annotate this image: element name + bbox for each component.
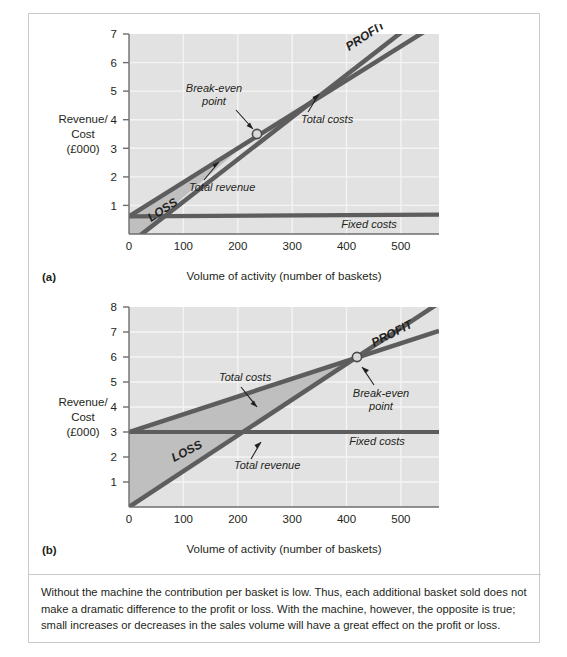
chart-b-ytick-8: 8 bbox=[111, 301, 117, 313]
chart-b-total-revenue-label: Total revenue bbox=[234, 459, 300, 471]
chart-a-total-costs-label: Total costs bbox=[301, 113, 354, 125]
chart-b-x-axis-label: Volume of activity (number of baskets) bbox=[129, 543, 439, 555]
chart-a-xtick-200: 200 bbox=[228, 240, 247, 252]
chart-b-panel-letter: (b) bbox=[42, 544, 57, 556]
chart-a-ytick-7: 7 bbox=[111, 28, 117, 40]
chart-b-ytick-5: 5 bbox=[111, 376, 117, 388]
chart-b-ytick-7: 7 bbox=[111, 326, 117, 338]
chart-b-break-even-label-line1: Break-even bbox=[353, 387, 409, 399]
chart-a-total-revenue-label: Total revenue bbox=[189, 181, 255, 193]
chart-a-panel-letter: (a) bbox=[42, 271, 56, 283]
chart-b-plot: 1 2 3 4 5 6 7 8 0 100 200 300 400 500 To… bbox=[29, 297, 459, 552]
chart-a-plot: 1 2 3 4 5 6 7 0 100 200 300 400 500 Brea… bbox=[29, 24, 459, 279]
chart-a-ytick-3: 3 bbox=[111, 143, 117, 155]
chart-b-xtick-200: 200 bbox=[228, 513, 247, 525]
chart-a-fixed-costs-label: Fixed costs bbox=[341, 218, 397, 230]
chart-b-xtick-0: 0 bbox=[126, 513, 132, 525]
chart-a-ytick-1: 1 bbox=[111, 200, 117, 212]
chart-a-break-even-label-line1: Break-even bbox=[186, 82, 242, 94]
chart-a-fixed-costs-line bbox=[129, 215, 439, 217]
chart-a-xtick-300: 300 bbox=[283, 240, 302, 252]
chart-b-total-costs-label: Total costs bbox=[219, 371, 272, 383]
chart-a-ytick-4: 4 bbox=[111, 114, 118, 126]
chart-b-xtick-500: 500 bbox=[391, 513, 410, 525]
figure-caption-text: Without the machine the contribution per… bbox=[41, 584, 529, 634]
chart-a-xtick-0: 0 bbox=[126, 240, 132, 252]
chart-a-break-even-label-line2: point bbox=[201, 95, 227, 107]
chart-a-x-axis-label: Volume of activity (number of baskets) bbox=[129, 270, 439, 282]
chart-a-y-ticks bbox=[123, 34, 129, 205]
figure-frame: Revenue/ Cost (£000) bbox=[28, 13, 540, 643]
chart-b-ytick-6: 6 bbox=[111, 351, 117, 363]
chart-a-xtick-100: 100 bbox=[174, 240, 193, 252]
chart-b-fixed-costs-label: Fixed costs bbox=[349, 435, 405, 447]
figure-caption: Without the machine the contribution per… bbox=[29, 574, 541, 634]
chart-b-ytick-3: 3 bbox=[111, 426, 117, 438]
chart-b-ytick-4: 4 bbox=[111, 401, 118, 413]
chart-b-break-even-label-line2: point bbox=[368, 400, 394, 412]
chart-b-ytick-1: 1 bbox=[111, 476, 117, 488]
chart-b-ytick-2: 2 bbox=[111, 451, 117, 463]
chart-a-ytick-2: 2 bbox=[111, 171, 117, 183]
chart-panel-b: Revenue/ Cost (£000) bbox=[29, 297, 541, 572]
chart-a-xtick-500: 500 bbox=[391, 240, 410, 252]
chart-b-y-ticks bbox=[123, 307, 129, 482]
chart-a-ytick-6: 6 bbox=[111, 57, 117, 69]
chart-panel-a: Revenue/ Cost (£000) bbox=[29, 24, 541, 299]
chart-a-break-even-marker bbox=[252, 129, 261, 138]
chart-a-xtick-400: 400 bbox=[337, 240, 356, 252]
chart-a-ytick-5: 5 bbox=[111, 85, 117, 97]
chart-b-xtick-100: 100 bbox=[174, 513, 193, 525]
chart-b-break-even-marker bbox=[352, 352, 361, 361]
chart-b-xtick-300: 300 bbox=[283, 513, 302, 525]
chart-b-xtick-400: 400 bbox=[337, 513, 356, 525]
